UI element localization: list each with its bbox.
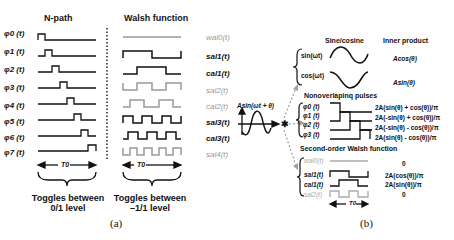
pulse-wave-3 bbox=[330, 130, 370, 139]
npath-wave-1 bbox=[38, 50, 96, 56]
cos-wave bbox=[330, 72, 368, 88]
walsh-wave-sal1 bbox=[123, 51, 181, 58]
pulse-wave-1 bbox=[330, 112, 372, 121]
walsh-wave-sal2 bbox=[123, 83, 181, 90]
npath-wave-5 bbox=[38, 114, 96, 120]
npath-wave-2 bbox=[38, 66, 96, 72]
npath-wave-3 bbox=[38, 82, 96, 88]
pulse-wave-2 bbox=[330, 121, 372, 130]
pulses-brace bbox=[296, 103, 303, 137]
npath-wave-7 bbox=[38, 145, 96, 151]
npath-wave-0 bbox=[38, 34, 96, 40]
walsh2-wave-cal1 bbox=[330, 180, 368, 186]
walsh-wave-sal4 bbox=[123, 148, 181, 155]
mixer-star-icon: ✱ bbox=[281, 119, 289, 129]
waveform-graphics: ✱ bbox=[0, 0, 454, 240]
input-sine-wave bbox=[242, 111, 271, 135]
sin-wave bbox=[330, 47, 368, 63]
walsh-wave-cal3 bbox=[123, 132, 181, 139]
npath-brace bbox=[38, 172, 96, 186]
walsh2-brace bbox=[297, 158, 304, 196]
npath-wave-6 bbox=[38, 130, 96, 136]
walsh2-wave-sal2 bbox=[330, 191, 368, 197]
pulse-wave-0 bbox=[330, 103, 372, 112]
walsh-wave-cal1 bbox=[123, 67, 181, 74]
npath-wave-4 bbox=[38, 98, 96, 104]
walsh-brace bbox=[123, 172, 181, 186]
walsh2-wave-sal1 bbox=[330, 171, 368, 177]
walsh-wave-sal3 bbox=[123, 116, 181, 123]
walsh-wave-cal2 bbox=[123, 100, 181, 107]
sinecos-brace bbox=[293, 49, 302, 85]
